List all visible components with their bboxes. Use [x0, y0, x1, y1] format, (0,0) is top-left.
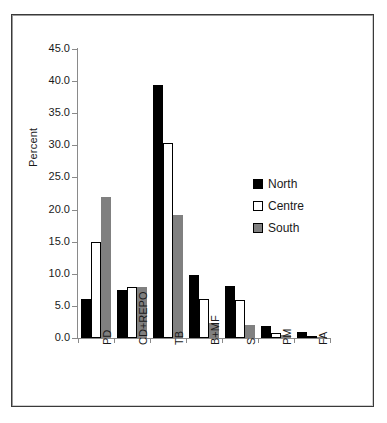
x-axis-label-b-mf: B+MF [209, 315, 221, 345]
legend-item-centre: Centre [253, 196, 304, 216]
y-axis-tick-label: 40.0 [28, 75, 70, 86]
y-axis-tick [72, 242, 77, 243]
bar-south-tb [173, 215, 183, 338]
y-axis-tick [72, 338, 77, 339]
y-axis-tick-label: 35.0 [28, 107, 70, 118]
y-axis-tick-label: 15.0 [28, 236, 70, 247]
y-axis-tick [72, 113, 77, 114]
x-axis-label-pd: PD [101, 330, 113, 345]
bar-centre-cd-repo [127, 287, 137, 338]
legend-item-north: North [253, 174, 304, 194]
y-axis-tick-label: 10.0 [28, 268, 70, 279]
bar-group [189, 49, 219, 338]
x-axis-label-s: S [245, 338, 257, 345]
x-axis-label-cd-repo: CD+REPO [137, 292, 149, 346]
y-axis-tick [72, 145, 77, 146]
x-axis-label-fa: FA [317, 332, 329, 345]
legend-label-north: North [268, 178, 297, 190]
bar-group [153, 49, 183, 338]
legend-label-south: South [268, 222, 299, 234]
x-axis-label-pm: PM [281, 329, 293, 346]
bar-north-b-mf [189, 275, 199, 338]
bar-group [225, 49, 255, 338]
bar-group [81, 49, 111, 338]
legend-swatch-north [253, 179, 263, 189]
bar-centre-pm [271, 333, 281, 338]
y-axis-tick [72, 274, 77, 275]
x-axis-tick [330, 338, 331, 343]
bar-north-cd-repo [117, 290, 127, 338]
y-axis-tick-label: 45.0 [28, 43, 70, 54]
y-axis-tick [72, 49, 77, 50]
x-axis-label-tb: TB [173, 331, 185, 345]
chart-legend: NorthCentreSouth [253, 174, 304, 240]
bar-north-pm [261, 326, 271, 338]
y-axis-tick-label: 20.0 [28, 204, 70, 215]
bar-north-s [225, 286, 235, 338]
bar-centre-s [235, 300, 245, 338]
legend-label-centre: Centre [268, 200, 304, 212]
y-axis-tick-label: 25.0 [28, 171, 70, 182]
legend-swatch-centre [253, 201, 263, 211]
y-axis-tick-labels: 0.05.010.015.020.025.030.035.040.045.0 [22, 0, 70, 423]
bar-north-fa [297, 332, 307, 338]
y-axis-tick-label: 5.0 [28, 300, 70, 311]
legend-swatch-south [253, 223, 263, 233]
bar-south-s [245, 325, 255, 338]
y-axis-tick-label: 0.0 [28, 332, 70, 343]
y-axis-tick [72, 210, 77, 211]
y-axis-tick [72, 306, 77, 307]
bar-north-pd [81, 299, 91, 338]
y-axis-tick [72, 81, 77, 82]
bar-centre-pd [91, 242, 101, 338]
legend-item-south: South [253, 218, 304, 238]
x-axis-category-labels: PDCD+REPOTBB+MFSPMFA [78, 343, 330, 408]
bar-north-tb [153, 85, 163, 338]
bar-centre-tb [163, 143, 173, 338]
bar-south-pd [101, 197, 111, 338]
bar-centre-fa [307, 336, 317, 338]
y-axis-tick [72, 177, 77, 178]
y-axis-tick-label: 30.0 [28, 139, 70, 150]
chart-figure: Percent 0.05.010.015.020.025.030.035.040… [0, 0, 387, 423]
bar-centre-b-mf [199, 299, 209, 338]
